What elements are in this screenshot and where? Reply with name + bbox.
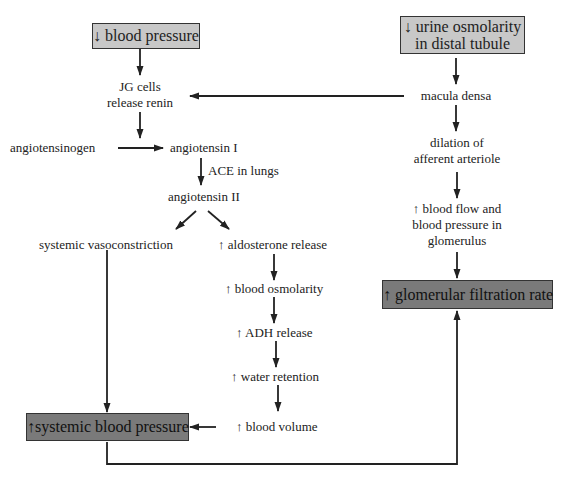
node-dilation-afferent-arteriole: dilation of afferent arteriole xyxy=(397,135,517,167)
node-increased-gfr: ↑ glomerular filtration rate xyxy=(382,280,553,309)
node-label: macula densa xyxy=(421,88,491,103)
node-label: ↑ glomerular filtration rate xyxy=(383,286,553,303)
node-label-line-1: JG cells xyxy=(90,79,190,95)
node-label: ↑ blood osmolarity xyxy=(225,281,323,296)
node-decreased-blood-pressure: ↓ blood pressure xyxy=(92,23,200,49)
node-label: ↑ blood volume xyxy=(236,419,318,434)
arrow-ang2-to-vaso xyxy=(176,211,196,229)
arrow-ang2-to-aldo xyxy=(208,211,229,229)
node-label-line-2: blood pressure in xyxy=(397,217,517,233)
node-blood-flow-glomerulus: ↑ blood flow and blood pressure in glome… xyxy=(397,201,517,249)
node-increased-systemic-blood-pressure: ↑systemic blood pressure xyxy=(26,413,189,441)
node-label: ↑ aldosterone release xyxy=(218,237,327,252)
node-label: ↑ ADH release xyxy=(236,325,313,340)
node-label: systemic vasoconstriction xyxy=(39,237,173,252)
node-label: ↑systemic blood pressure xyxy=(27,418,189,435)
node-adh-release: ↑ ADH release xyxy=(236,325,313,341)
node-label-line-1: dilation of xyxy=(397,135,517,151)
node-label-line-3: glomerulus xyxy=(397,233,517,249)
node-label-line-1: ↓ urine osmolarity xyxy=(401,18,524,35)
node-jg-cells: JG cells release renin xyxy=(90,79,190,111)
node-macula-densa: macula densa xyxy=(404,88,508,104)
node-decreased-urine-osmolarity: ↓ urine osmolarity in distal tubule xyxy=(400,16,525,54)
node-label: angiotensin I xyxy=(170,140,238,155)
node-label: ↑ water retention xyxy=(231,369,319,384)
node-angiotensinogen: angiotensinogen xyxy=(10,140,95,156)
node-aldosterone-release: ↑ aldosterone release xyxy=(218,237,327,253)
node-blood-volume: ↑ blood volume xyxy=(236,419,318,435)
node-label: ↓ blood pressure xyxy=(93,27,199,44)
node-label-line-2: in distal tubule xyxy=(401,35,524,52)
node-label-line-1: ↑ blood flow and xyxy=(397,201,517,217)
node-water-retention: ↑ water retention xyxy=(231,369,319,385)
node-label-line-2: release renin xyxy=(90,95,190,111)
node-systemic-vasoconstriction: systemic vasoconstriction xyxy=(39,237,173,253)
node-angiotensin-2: angiotensin II xyxy=(168,189,240,205)
edge-label: ACE in lungs xyxy=(208,163,279,178)
node-angiotensin-1: angiotensin I xyxy=(170,140,238,156)
node-label: angiotensin II xyxy=(168,189,240,204)
node-label-line-2: afferent arteriole xyxy=(397,151,517,167)
node-blood-osmolarity: ↑ blood osmolarity xyxy=(225,281,323,297)
edge-label-ace-in-lungs: ACE in lungs xyxy=(208,163,279,179)
diagram-canvas: ↓ blood pressure ↓ urine osmolarity in d… xyxy=(0,0,570,480)
node-label: angiotensinogen xyxy=(10,140,95,155)
